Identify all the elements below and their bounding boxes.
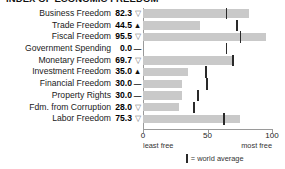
trend-flat-icon: — <box>132 78 143 90</box>
row-plot <box>143 66 285 78</box>
row-plot <box>143 78 285 90</box>
x-axis-tick-label: 100 <box>265 131 278 140</box>
x-axis-tick-label: 0 <box>141 131 145 140</box>
row-label: Financial Freedom <box>0 78 114 90</box>
world-average-marker <box>236 20 238 31</box>
world-average-marker <box>226 43 228 54</box>
chart-row: Property Rights30.0— <box>0 90 285 102</box>
chart-row: Labor Freedom75.3▽ <box>0 113 285 125</box>
economic-freedom-chart: INDEX OF ECONOMIC FREEDOM Business Freed… <box>0 0 285 169</box>
world-average-marker <box>223 113 225 124</box>
row-value: 30.0 <box>114 90 132 102</box>
row-value: 35.0 <box>114 66 132 78</box>
row-value: 0.0 <box>114 43 132 55</box>
legend: = world average <box>186 154 244 163</box>
trend-up-icon: ▲ <box>132 66 143 78</box>
chart-row: Government Spending0.0— <box>0 43 285 55</box>
world-average-tick-icon <box>186 154 188 163</box>
row-plot <box>143 55 285 67</box>
row-label: Fdm. from Corruption <box>0 102 114 114</box>
trend-flat-icon: — <box>132 90 143 102</box>
axis-label-most-free: most free <box>241 141 272 150</box>
world-average-marker <box>205 66 207 77</box>
row-plot <box>143 8 285 20</box>
axis-label-least-free: least free <box>143 141 173 150</box>
row-plot <box>143 43 285 55</box>
chart-row: Monetary Freedom69.7▽ <box>0 55 285 67</box>
chart-row: Trade Freedom44.5▲ <box>0 20 285 32</box>
page-title: INDEX OF ECONOMIC FREEDOM <box>6 0 158 4</box>
trend-down-icon: ▽ <box>132 31 143 43</box>
chart-row: Financial Freedom30.0— <box>0 78 285 90</box>
row-label: Government Spending <box>0 43 114 55</box>
row-value: 30.0 <box>114 78 132 90</box>
row-value: 82.3 <box>114 8 132 20</box>
x-axis-tick-label: 50 <box>203 131 212 140</box>
trend-down-icon: ▽ <box>132 102 143 114</box>
world-average-marker <box>197 90 199 101</box>
row-value: 75.3 <box>114 113 132 125</box>
value-bar <box>143 80 182 89</box>
row-plot <box>143 31 285 43</box>
row-plot <box>143 20 285 32</box>
world-average-marker <box>240 31 242 42</box>
value-bar <box>143 68 188 77</box>
x-axis-end-labels: least free most free <box>0 141 285 153</box>
chart-row: Fiscal Freedom95.5▽ <box>0 31 285 43</box>
value-bar <box>143 103 179 112</box>
row-label: Business Freedom <box>0 8 114 20</box>
world-average-marker <box>232 55 234 66</box>
value-bar <box>143 91 182 100</box>
trend-flat-icon: — <box>132 43 143 55</box>
row-label: Investment Freedom <box>0 66 114 78</box>
row-label: Fiscal Freedom <box>0 31 114 43</box>
chart-row: Business Freedom82.3▽ <box>0 8 285 20</box>
chart-row: Investment Freedom35.0▲ <box>0 66 285 78</box>
row-value: 28.0 <box>114 102 132 114</box>
value-bar <box>143 56 233 65</box>
value-bar <box>143 33 266 42</box>
value-bar <box>143 115 240 124</box>
chart-title-strip: INDEX OF ECONOMIC FREEDOM <box>0 0 285 7</box>
world-average-marker <box>226 8 228 19</box>
row-label: Monetary Freedom <box>0 55 114 67</box>
chart-rows: Business Freedom82.3▽Trade Freedom44.5▲F… <box>0 8 285 125</box>
row-label: Property Rights <box>0 90 114 102</box>
chart-row: Fdm. from Corruption28.0▽ <box>0 102 285 114</box>
row-value: 44.5 <box>114 20 132 32</box>
row-label: Labor Freedom <box>0 113 114 125</box>
row-value: 69.7 <box>114 55 132 67</box>
value-bar <box>143 21 200 30</box>
row-plot <box>143 90 285 102</box>
trend-down-icon: ▽ <box>132 8 143 20</box>
row-plot <box>143 102 285 114</box>
world-average-marker <box>193 102 195 113</box>
trend-up-icon: ▲ <box>132 20 143 32</box>
legend-label: = world average <box>191 154 244 163</box>
row-value: 95.5 <box>114 31 132 43</box>
trend-down-icon: ▽ <box>132 55 143 67</box>
world-average-marker <box>206 78 208 89</box>
value-bar <box>143 9 249 18</box>
trend-down-icon: ▽ <box>132 113 143 125</box>
row-plot <box>143 113 285 125</box>
row-label: Trade Freedom <box>0 20 114 32</box>
